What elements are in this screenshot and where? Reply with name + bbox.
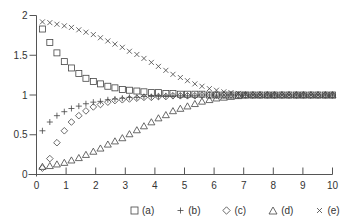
square-marker	[90, 78, 96, 84]
cross-marker	[156, 64, 161, 69]
cross-marker	[207, 86, 212, 91]
square-marker	[68, 65, 74, 71]
square-marker	[61, 59, 67, 65]
triangle-marker	[119, 135, 126, 141]
cross-marker	[112, 42, 117, 47]
square-marker	[97, 81, 103, 87]
square-marker-icon	[130, 206, 139, 215]
triangle-marker	[177, 105, 184, 111]
x-tick-label: 1	[63, 180, 69, 191]
triangle-marker	[184, 103, 191, 109]
plus-marker	[192, 93, 198, 99]
legend-label: (c)	[234, 205, 246, 216]
triangle-marker	[53, 161, 60, 167]
diamond-marker	[68, 119, 75, 126]
diamond-marker	[61, 127, 68, 134]
square-marker	[119, 86, 125, 92]
cross-marker	[199, 84, 204, 89]
cross-marker-icon	[315, 206, 324, 215]
square-marker	[112, 85, 118, 91]
triangle-marker	[97, 145, 104, 151]
square-marker	[83, 75, 89, 81]
y-tick-label: 1	[22, 90, 28, 101]
legend-item-c: (c)	[222, 203, 246, 217]
triangle-marker	[140, 123, 147, 129]
square-marker	[134, 88, 140, 94]
triangle-marker-icon	[268, 206, 278, 215]
square-marker	[105, 83, 111, 89]
triangle-marker	[169, 108, 176, 114]
triangle-marker	[198, 98, 205, 104]
cross-marker	[192, 81, 197, 86]
triangle-marker	[148, 119, 155, 125]
triangle-marker	[133, 127, 140, 133]
cross-marker	[47, 20, 52, 25]
cross-marker	[54, 22, 59, 27]
diamond-marker	[54, 139, 61, 146]
legend-label: (b)	[188, 205, 200, 216]
square-marker	[54, 50, 60, 56]
triangle-marker	[155, 115, 162, 121]
plus-marker	[61, 109, 67, 115]
diamond-marker	[39, 165, 46, 172]
plus-marker	[39, 128, 45, 134]
scatter-chart: 00.511.52012345678910	[0, 0, 349, 223]
x-tick-label: 9	[300, 180, 306, 191]
x-tick-label: 0	[34, 180, 40, 191]
plus-marker	[83, 101, 89, 107]
x-tick-label: 5	[182, 180, 188, 191]
cross-marker	[170, 72, 175, 77]
plus-marker	[184, 93, 190, 99]
triangle-marker	[82, 151, 89, 157]
triangle-marker	[68, 157, 75, 163]
y-tick-label: 0.5	[14, 129, 28, 140]
plus-marker	[177, 93, 183, 99]
triangle-marker	[126, 131, 133, 137]
triangle-marker	[90, 148, 97, 154]
cross-marker	[62, 23, 67, 28]
plus-marker	[170, 93, 176, 99]
legend-item-b: (b)	[176, 203, 200, 217]
legend-item-d: (d)	[268, 203, 293, 217]
triangle-marker	[162, 112, 169, 118]
legend-label: (a)	[142, 205, 154, 216]
triangle-marker	[46, 162, 53, 168]
cross-marker	[76, 27, 81, 32]
triangle-marker	[75, 155, 82, 161]
square-marker	[76, 71, 82, 77]
triangle-marker	[111, 138, 118, 144]
square-marker	[39, 26, 45, 32]
diamond-marker-icon	[222, 206, 231, 215]
square-marker	[126, 87, 132, 93]
chart-markers	[39, 19, 336, 171]
plus-marker	[68, 106, 74, 112]
cross-marker	[149, 60, 154, 65]
cross-marker	[127, 49, 132, 54]
legend-label: (e)	[327, 205, 339, 216]
cross-marker	[163, 68, 168, 73]
cross-marker	[91, 32, 96, 37]
cross-marker	[185, 78, 190, 83]
x-tick-label: 3	[123, 180, 129, 191]
x-tick-label: 6	[211, 180, 217, 191]
diamond-marker	[47, 155, 54, 162]
diamond-marker	[83, 108, 90, 115]
chart-legend: (a) (b) (c) (d) (e)	[130, 203, 349, 217]
x-tick-label: 4	[152, 180, 158, 191]
cross-marker	[141, 56, 146, 61]
plus-marker-icon	[176, 206, 185, 215]
x-tick-label: 7	[241, 180, 247, 191]
triangle-marker	[191, 100, 198, 106]
plus-marker	[76, 103, 82, 109]
plus-marker	[54, 113, 60, 119]
plus-marker	[105, 97, 111, 103]
x-tick-label: 10	[327, 180, 339, 191]
plus-marker	[90, 99, 96, 105]
x-tick-label: 8	[271, 180, 277, 191]
y-tick-label: 2	[22, 10, 28, 21]
cross-marker	[69, 25, 74, 30]
plus-marker	[155, 94, 161, 100]
plus-marker	[47, 119, 53, 125]
triangle-marker	[61, 159, 68, 165]
cross-marker	[83, 30, 88, 35]
